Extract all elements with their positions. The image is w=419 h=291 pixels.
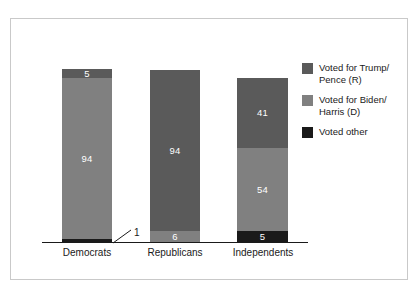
bar-value-biden-independents: 54	[257, 185, 268, 195]
plot-area: 5 94 1 1 94 6	[0, 0, 419, 291]
bar-independents[interactable]: 41 54 5	[237, 78, 288, 242]
bar-democrats[interactable]: 5 94 1	[62, 69, 112, 242]
legend-label-biden-line2: Harris (D)	[319, 106, 360, 117]
bar-segment-other-independents[interactable]: 5	[237, 231, 288, 242]
bar-segment-trump-republicans[interactable]: 94	[150, 70, 200, 231]
bar-value-trump-democrats: 5	[84, 69, 89, 79]
legend-label-trump: Voted for Trump/ Pence (R)	[319, 62, 389, 85]
bar-segment-trump-democrats[interactable]: 5	[62, 69, 112, 78]
bar-value-biden-republicans: 6	[172, 232, 177, 242]
bar-value-other-independents: 5	[260, 232, 265, 242]
chart-figure: 5 94 1 1 94 6	[0, 0, 419, 291]
bar-republicans[interactable]: 94 6	[150, 70, 200, 242]
x-axis-label-democrats: Democrats	[47, 247, 127, 258]
legend-label-biden-line1: Voted for Biden/	[319, 94, 387, 105]
legend-swatch-other-icon	[302, 127, 313, 138]
x-axis-line	[42, 242, 308, 243]
legend-swatch-biden-icon	[302, 95, 313, 106]
legend-item-trump[interactable]: Voted for Trump/ Pence (R)	[302, 62, 414, 85]
x-axis-label-independents: Independents	[222, 247, 304, 258]
bar-segment-biden-republicans[interactable]: 6	[150, 231, 200, 242]
legend-swatch-trump-icon	[302, 63, 313, 74]
callout-other-democrats-label: 1	[134, 227, 140, 238]
callout-other-democrats: 1	[113, 228, 143, 246]
bar-value-trump-independents: 41	[257, 108, 268, 118]
legend-item-other[interactable]: Voted other	[302, 126, 414, 138]
bar-segment-biden-independents[interactable]: 54	[237, 148, 288, 231]
chart-legend: Voted for Trump/ Pence (R) Voted for Bid…	[302, 62, 414, 147]
bar-value-biden-democrats: 94	[82, 154, 93, 164]
legend-item-biden[interactable]: Voted for Biden/ Harris (D)	[302, 94, 414, 117]
bar-segment-biden-democrats[interactable]: 94	[62, 78, 112, 239]
legend-label-other: Voted other	[319, 126, 368, 138]
bar-value-trump-republicans: 94	[170, 146, 181, 156]
x-axis-label-republicans: Republicans	[135, 247, 215, 258]
legend-label-trump-line2: Pence (R)	[319, 74, 362, 85]
bar-segment-trump-independents[interactable]: 41	[237, 78, 288, 148]
legend-label-biden: Voted for Biden/ Harris (D)	[319, 94, 387, 117]
legend-label-trump-line1: Voted for Trump/	[319, 62, 389, 73]
